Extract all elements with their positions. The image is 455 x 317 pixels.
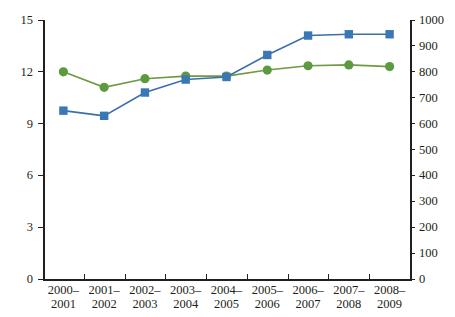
blue-series-point — [59, 106, 67, 114]
blue-series-point — [182, 75, 190, 83]
green-series-point — [100, 83, 109, 92]
plot-area — [0, 0, 455, 317]
green-series-point — [344, 60, 353, 69]
blue-series-point — [385, 30, 393, 38]
blue-series-point — [263, 51, 271, 59]
blue-series-point — [141, 88, 149, 96]
green-series-point — [59, 67, 68, 76]
green-series-point — [385, 62, 394, 71]
blue-series-point — [222, 73, 230, 81]
green-series-point — [140, 74, 149, 83]
chart-container: 0369121501002003004005006007008009001000… — [0, 0, 455, 317]
green-series-point — [303, 61, 312, 70]
blue-series-point — [100, 112, 108, 120]
blue-series-point — [345, 30, 353, 38]
green-series-point — [263, 65, 272, 74]
blue-series-point — [304, 31, 312, 39]
